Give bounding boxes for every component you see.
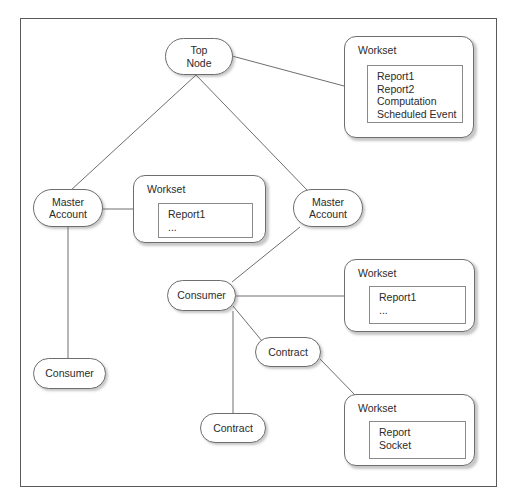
node-master-account-left[interactable]: Master Account <box>33 189 103 227</box>
node-consumer-bottom[interactable]: Consumer <box>33 358 106 389</box>
workset-item: ... <box>379 304 465 317</box>
node-label: Contract <box>264 346 312 359</box>
node-label: Consumer <box>173 289 229 302</box>
workset-workset-middle-right[interactable]: WorksetReport1... <box>344 259 475 332</box>
workset-title: Workset <box>358 267 396 279</box>
workset-item-list: Report1Report2ComputationScheduled Event <box>367 65 463 123</box>
workset-item: Socket <box>379 439 465 452</box>
node-label: Master Account <box>305 196 351 221</box>
workset-item: Report <box>379 426 465 439</box>
node-label: Top Node <box>182 44 215 69</box>
workset-item: Report1 <box>377 70 462 83</box>
workset-workset-middle-left[interactable]: WorksetReport1... <box>133 175 266 243</box>
node-label: Contract <box>209 422 257 435</box>
node-master-account-right[interactable]: Master Account <box>293 189 363 227</box>
workset-item: ... <box>168 221 252 234</box>
node-contract-lower[interactable]: Contract <box>200 413 266 443</box>
diagram-canvas: Top NodeMaster AccountMaster AccountCons… <box>0 0 515 501</box>
workset-item: Report2 <box>377 83 462 96</box>
workset-workset-top-right[interactable]: WorksetReport1Report2ComputationSchedule… <box>344 36 474 138</box>
node-label: Consumer <box>41 367 97 380</box>
node-label: Master Account <box>45 196 91 221</box>
workset-item: Report1 <box>379 291 465 304</box>
workset-item: Computation <box>377 95 462 108</box>
workset-item: Report1 <box>168 208 252 221</box>
workset-workset-bottom-right[interactable]: WorksetReportSocket <box>344 394 475 466</box>
workset-item-list: Report1... <box>158 203 253 238</box>
workset-title: Workset <box>358 402 396 414</box>
workset-item-list: ReportSocket <box>369 421 466 459</box>
node-contract-upper[interactable]: Contract <box>255 337 321 367</box>
workset-item-list: Report1... <box>369 286 466 324</box>
workset-item: Scheduled Event <box>377 108 462 121</box>
node-top-node[interactable]: Top Node <box>165 38 233 75</box>
node-consumer-center[interactable]: Consumer <box>167 280 236 311</box>
workset-title: Workset <box>358 44 396 56</box>
workset-title: Workset <box>147 183 185 195</box>
